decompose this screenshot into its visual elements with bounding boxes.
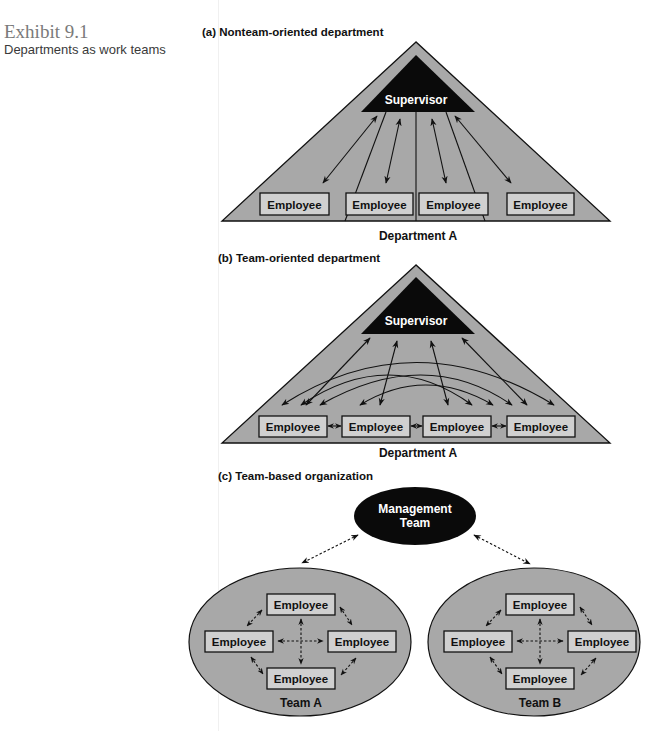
department-label: Department A bbox=[379, 229, 458, 243]
employee-box: Employee bbox=[267, 668, 335, 689]
department-label: Department A bbox=[379, 446, 458, 460]
supervisor-label: Supervisor bbox=[385, 314, 448, 328]
employee-box: Employee bbox=[506, 668, 574, 689]
management-label-line2: Team bbox=[400, 516, 430, 530]
svg-text:Employee: Employee bbox=[513, 599, 567, 611]
supervisor-label: Supervisor bbox=[385, 93, 448, 107]
employee-box: Employee bbox=[423, 416, 491, 437]
dotted-two-way-arrow-icon bbox=[474, 535, 530, 564]
svg-text:Employee: Employee bbox=[349, 421, 403, 433]
svg-text:Employee: Employee bbox=[426, 199, 480, 211]
svg-text:Employee: Employee bbox=[352, 199, 406, 211]
team-a-label: Team A bbox=[280, 696, 322, 710]
employee-box: Employee bbox=[328, 631, 396, 652]
team-b-label: Team B bbox=[519, 696, 562, 710]
panel-a-heading: (a) Nonteam-oriented department bbox=[202, 26, 384, 38]
employee-box: Employee bbox=[205, 631, 273, 652]
employee-box: Employee bbox=[507, 416, 575, 437]
panel-a-nonteam-department: (a) Nonteam-oriented department Supervis… bbox=[202, 26, 610, 243]
svg-text:Employee: Employee bbox=[266, 421, 320, 433]
svg-text:Employee: Employee bbox=[575, 636, 629, 648]
svg-text:Employee: Employee bbox=[212, 636, 266, 648]
svg-text:Employee: Employee bbox=[513, 199, 567, 211]
svg-text:Employee: Employee bbox=[514, 421, 568, 433]
departments-diagram: (a) Nonteam-oriented department Supervis… bbox=[0, 0, 648, 731]
panel-b-team-department: (b) Team-oriented department Supervisor … bbox=[218, 252, 610, 460]
team-a: Employee Employee Employee Employee Te bbox=[189, 568, 411, 716]
svg-text:Employee: Employee bbox=[335, 636, 389, 648]
panel-c-team-based-org: (c) Team-based organization Management T… bbox=[189, 470, 640, 716]
svg-text:Employee: Employee bbox=[267, 199, 321, 211]
svg-text:Employee: Employee bbox=[430, 421, 484, 433]
employee-box: Employee bbox=[419, 193, 488, 215]
employee-box: Employee bbox=[507, 193, 574, 215]
svg-text:Employee: Employee bbox=[274, 673, 328, 685]
employee-box: Employee bbox=[267, 594, 335, 615]
svg-text:Employee: Employee bbox=[513, 673, 567, 685]
panel-c-heading: (c) Team-based organization bbox=[218, 470, 373, 482]
svg-text:Employee: Employee bbox=[451, 636, 505, 648]
employee-box: Employee bbox=[568, 631, 636, 652]
employee-box: Employee bbox=[444, 631, 512, 652]
dotted-two-way-arrow-icon bbox=[302, 535, 358, 563]
employee-box: Employee bbox=[342, 416, 410, 437]
employee-box: Employee bbox=[346, 193, 413, 215]
employee-box: Employee bbox=[259, 416, 327, 437]
panel-b-heading: (b) Team-oriented department bbox=[218, 252, 380, 264]
employee-box: Employee bbox=[260, 193, 329, 215]
employee-box: Employee bbox=[506, 594, 574, 615]
management-label-line1: Management bbox=[378, 502, 451, 516]
team-b: Employee Employee Employee Employee Team… bbox=[428, 568, 640, 716]
svg-text:Employee: Employee bbox=[274, 599, 328, 611]
